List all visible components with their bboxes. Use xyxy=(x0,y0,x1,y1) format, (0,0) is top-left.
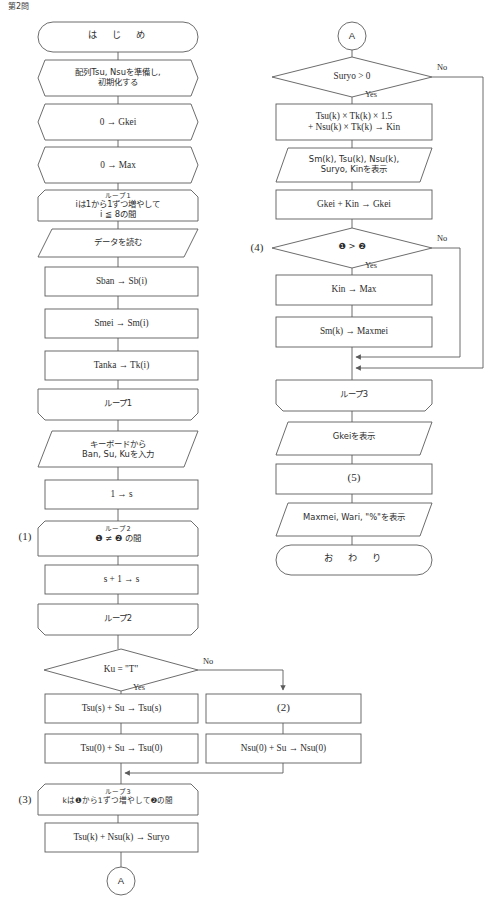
shape-blank-2 xyxy=(206,694,361,723)
shape-read-data xyxy=(38,229,198,257)
shape-suryo-decision xyxy=(272,57,432,97)
shape-blank-5 xyxy=(276,464,432,494)
shape-loop3-start xyxy=(38,784,198,815)
shape-display-row xyxy=(276,148,432,182)
shape-loop2-start xyxy=(38,521,198,556)
shape-tsu-s xyxy=(45,694,198,723)
shape-prep-init xyxy=(38,60,198,96)
shape-loop2-end xyxy=(38,604,198,635)
shape-kin-calc xyxy=(276,104,432,140)
shape-keyboard xyxy=(38,431,198,467)
shape-prep-gkei xyxy=(38,104,198,140)
shape-suryo-calc xyxy=(45,823,198,852)
flowchart-canvas xyxy=(0,0,501,917)
flowchart-sheet: 第2問 は じ め 配列Tsu, Nsuを準備し, 初期化する 0 → Gkei… xyxy=(0,0,501,917)
shape-s-inc xyxy=(45,565,198,594)
shape-ku-decision xyxy=(44,649,198,691)
shape-loop1-end xyxy=(38,389,198,420)
shape-s-init xyxy=(45,480,198,509)
shape-tsu-0 xyxy=(45,734,198,763)
shape-tanka xyxy=(45,351,198,380)
shape-prep-max xyxy=(38,147,198,183)
shape-smk-maxmei xyxy=(276,317,432,347)
shape-sban xyxy=(45,267,198,296)
shape-gkei-acc xyxy=(276,190,432,219)
shape-kin-max xyxy=(276,275,432,305)
shape-connector-a-bottom xyxy=(107,867,135,895)
shape-start xyxy=(38,22,198,52)
shape-cmp-decision xyxy=(272,228,432,268)
shape-nsu-0 xyxy=(206,734,361,763)
shape-loop1-start xyxy=(38,190,198,221)
shape-gkei-display xyxy=(276,422,432,455)
shape-smei xyxy=(45,309,198,338)
shape-end xyxy=(276,545,432,575)
shape-loop3-end xyxy=(276,380,432,411)
shape-connector-a-top xyxy=(338,22,366,50)
shape-final-display xyxy=(276,503,432,536)
